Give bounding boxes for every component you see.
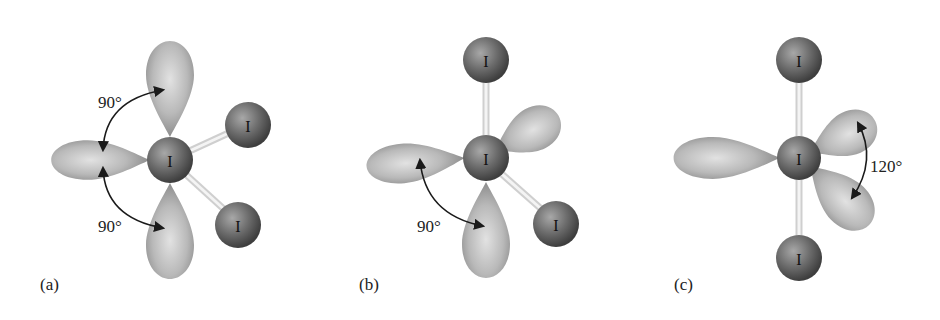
bonded-atom-label: I — [483, 53, 488, 70]
bonded-atom-label: I — [235, 218, 240, 235]
bonded-atom-label: I — [796, 251, 801, 268]
bonded-atom-label: I — [796, 53, 801, 70]
lone-pair-lobe-top — [146, 41, 194, 137]
panel-c: I I I 120° (c) — [674, 37, 903, 294]
panel-label: (b) — [359, 275, 379, 294]
central-atom-label: I — [483, 151, 488, 168]
lone-pair-lobe-bottom — [146, 183, 194, 279]
central-atom-label: I — [167, 153, 172, 170]
panel-label: (a) — [40, 275, 59, 294]
bonded-atom-label: I — [553, 217, 558, 234]
angle-label: 90° — [98, 93, 122, 112]
bonded-atom-label: I — [245, 118, 250, 135]
panel-a: I I I 90° 90° (a) — [40, 41, 271, 294]
lone-pair-lobe-left — [365, 138, 467, 186]
molecular-geometry-figure: I I I 90° 90° (a) I I I — [0, 0, 940, 320]
lone-pair-lobe-left — [674, 137, 780, 179]
lone-pair-lobe-left — [51, 140, 150, 180]
lone-pair-lobe-bottom — [462, 182, 510, 278]
angle-label: 90° — [98, 217, 122, 236]
panel-label: (c) — [674, 275, 693, 294]
angle-label: 90° — [417, 217, 441, 236]
central-atom-label: I — [796, 151, 801, 168]
panel-b: I I I 90° (b) — [359, 37, 579, 294]
angle-label: 120° — [870, 157, 902, 176]
